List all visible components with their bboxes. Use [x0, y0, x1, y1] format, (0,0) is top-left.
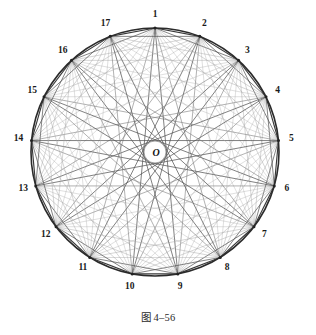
vertex-dot [273, 184, 276, 187]
figure-caption: 图 4–56 [0, 309, 316, 324]
vertex-label-14: 14 [14, 135, 24, 145]
vertex-dot [70, 59, 73, 62]
vertex-dot [219, 256, 222, 259]
vertex-dot [55, 225, 58, 228]
chord [200, 36, 266, 96]
vertex-dot [154, 27, 157, 30]
vertex-dot [176, 272, 179, 275]
chord [155, 28, 254, 227]
vertex-dot [237, 59, 240, 62]
vertex-dot [30, 139, 33, 142]
vertex-label-11: 11 [78, 264, 87, 274]
vertex-dot [43, 95, 46, 98]
figure-container: 1234567891011121314151617 O 图 4–56 [0, 0, 316, 335]
chord [90, 36, 200, 257]
vertex-label-1: 1 [153, 10, 158, 20]
chord [200, 36, 279, 140]
vertex-dot [198, 35, 201, 38]
vertex-dot [252, 225, 255, 228]
chord [132, 60, 238, 274]
vertex-dot [88, 256, 91, 259]
chord [56, 141, 278, 227]
vertex-label-16: 16 [58, 46, 68, 56]
chord [220, 227, 254, 258]
chord [56, 227, 90, 258]
vertex-dot [277, 139, 280, 142]
vertex-label-2: 2 [202, 20, 207, 30]
vertex-label-6: 6 [284, 185, 289, 195]
vertex-label-5: 5 [289, 135, 294, 145]
vertex-label-3: 3 [245, 46, 250, 56]
chord [56, 28, 155, 227]
vertex-label-15: 15 [28, 86, 38, 96]
chord [110, 36, 220, 257]
chord [71, 60, 177, 274]
vertex-label-4: 4 [275, 86, 280, 96]
chord [239, 60, 254, 226]
chord [36, 97, 266, 186]
vertex-label-13: 13 [18, 185, 28, 195]
vertex-dot [265, 95, 268, 98]
vertex-dot [109, 35, 112, 38]
vertex-dot [34, 184, 37, 187]
vertex-label-17: 17 [101, 20, 111, 30]
center-point-label: O [152, 148, 159, 158]
circle-chord-diagram [0, 0, 316, 335]
vertex-label-7: 7 [262, 230, 267, 240]
chord [44, 97, 274, 186]
chord [32, 36, 111, 140]
vertex-label-9: 9 [178, 282, 183, 292]
chord [32, 141, 254, 227]
chord [44, 36, 110, 96]
chord [56, 60, 71, 226]
vertex-label-8: 8 [225, 264, 230, 274]
vertex-dot [131, 272, 134, 275]
vertex-label-12: 12 [41, 230, 51, 240]
vertex-label-10: 10 [125, 282, 135, 292]
